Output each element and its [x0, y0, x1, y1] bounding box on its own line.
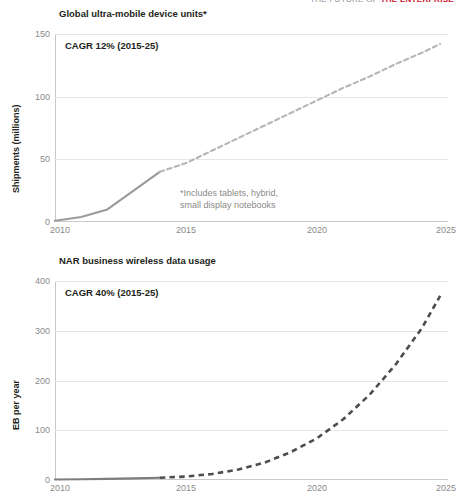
x-tick-2015: 2015	[176, 225, 196, 235]
footnote-line-2: small display notebooks	[180, 200, 278, 212]
series-line-actual	[55, 478, 160, 480]
series-line-forecast	[160, 296, 440, 478]
y-axis-title: Shipments (millions)	[11, 104, 21, 193]
plot-area: 400 300 200 100 0 2010 2015 2020 2025 CA…	[55, 281, 448, 480]
chart-title: NAR business wireless data usage	[59, 255, 216, 266]
header-text: THE FUTURE OF THE ENTERPRISE	[310, 0, 454, 4]
series-lines	[55, 281, 448, 480]
y-tick-100: 100	[35, 92, 50, 102]
y-tick-100: 100	[35, 425, 50, 435]
y-axis-title: EB per year	[11, 380, 21, 430]
y-tick-150: 150	[35, 29, 50, 39]
x-tick-2010: 2010	[50, 483, 70, 493]
y-tick-400: 400	[35, 276, 50, 286]
footnote-line-1: *Includes tablets, hybrid,	[180, 188, 278, 200]
x-tick-2020: 2020	[307, 483, 327, 493]
chart-panel-nar-business-wireless-data-usage: NAR business wireless data usage EB per …	[0, 255, 460, 495]
chart-panel-ultra-mobile-device-units: Global ultra-mobile device units* Shipme…	[0, 8, 460, 250]
chart-footnote: *Includes tablets, hybrid, small display…	[180, 188, 278, 211]
series-line-forecast	[160, 44, 440, 172]
header-accent: THE ENTERPRISE	[380, 0, 454, 4]
x-tick-2010: 2010	[50, 225, 70, 235]
y-tick-300: 300	[35, 326, 50, 336]
header-kicker: THE FUTURE OF	[310, 0, 378, 4]
x-tick-2020: 2020	[307, 225, 327, 235]
chart-title: Global ultra-mobile device units*	[59, 8, 207, 19]
x-tick-2025: 2025	[436, 483, 456, 493]
y-tick-50: 50	[40, 154, 50, 164]
x-tick-2025: 2025	[436, 225, 456, 235]
y-tick-200: 200	[35, 376, 50, 386]
x-tick-2015: 2015	[176, 483, 196, 493]
series-line-actual	[55, 172, 160, 221]
page-header-strip: THE FUTURE OF THE ENTERPRISE	[0, 0, 460, 7]
